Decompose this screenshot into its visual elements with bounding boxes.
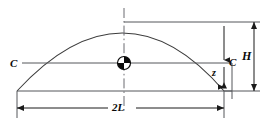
centroid-quadrant-top-right [124, 57, 131, 64]
dimension-arrow-2l-left [17, 105, 24, 111]
dimension-arrow-z-up [221, 82, 227, 88]
label-chord-left: C [10, 58, 17, 69]
dimension-arrow-h-bottom [251, 84, 257, 91]
parabolic-arch-diagram: C C H z 2L [0, 0, 270, 134]
label-depth: z [212, 68, 216, 78]
centroid-quadrant-bottom-left [118, 63, 125, 70]
dimension-arrow-2l-right [217, 105, 224, 111]
dimension-arrow-h-top [251, 22, 257, 29]
label-chord-right: C [229, 57, 236, 68]
label-span: 2L [112, 102, 124, 113]
label-height: H [242, 50, 251, 62]
centroid-marker [118, 57, 131, 70]
